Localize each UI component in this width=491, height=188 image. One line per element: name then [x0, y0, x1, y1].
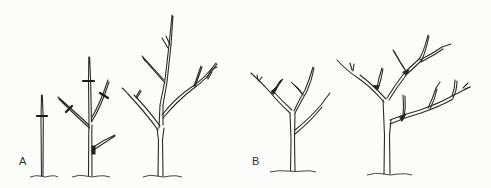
- trees-drawing: [0, 0, 491, 188]
- pruned-stub-icon: [291, 82, 303, 95]
- tree-a3: [122, 15, 217, 177]
- tree-a1-whip: [30, 95, 58, 177]
- removed-shoot-icon: [92, 146, 95, 154]
- pruning-illustration: A B: [0, 0, 491, 188]
- tree-a2: [58, 57, 115, 177]
- tree-b1: [251, 67, 330, 172]
- pruned-stub-icon: [271, 79, 283, 94]
- tree-b2: [337, 35, 470, 175]
